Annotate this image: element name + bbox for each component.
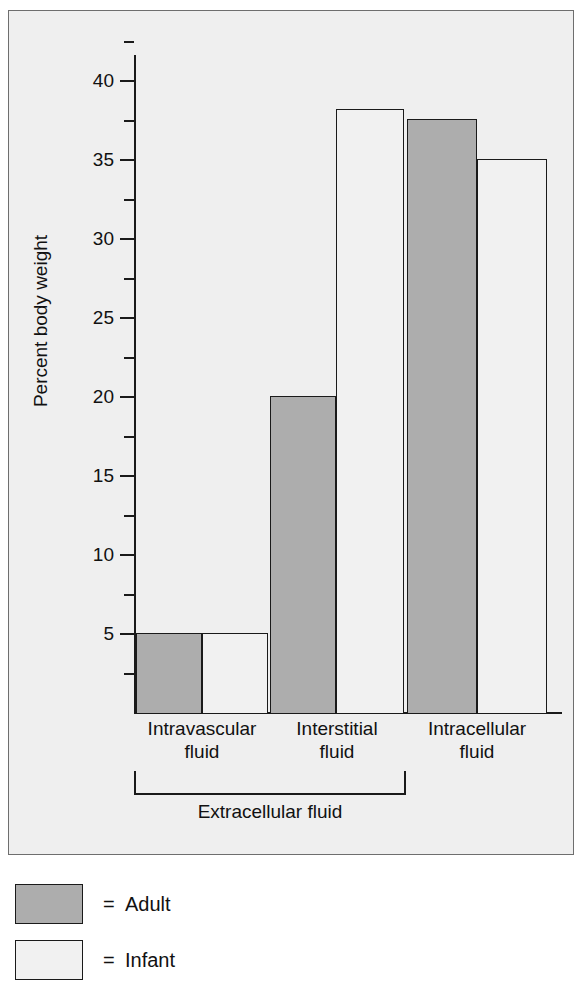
y-tick-minor-12_5 (124, 515, 134, 517)
y-tick-label-wrap-15: 15 (69, 466, 114, 485)
y-tick-5 (120, 633, 134, 635)
y-tick-label-wrap-35: 35 (69, 150, 114, 169)
y-tick-label-30: 30 (74, 229, 114, 248)
category-label-intravascular-line2: fluid (127, 740, 277, 763)
category-label-intravascular: Intravascular fluid (127, 717, 277, 763)
y-tick-label-35: 35 (74, 150, 114, 169)
y-tick-minor-2_5 (124, 673, 134, 675)
y-tick-label-wrap-30: 30 (69, 229, 114, 248)
y-tick-minor-32_5 (124, 199, 134, 201)
bracket-right-tick (404, 771, 406, 795)
y-tick-label-40: 40 (74, 71, 114, 90)
category-label-interstitial: Interstitial fluid (262, 717, 412, 763)
category-label-interstitial-line2: fluid (262, 740, 412, 763)
y-tick-label-20: 20 (74, 387, 114, 406)
y-tick-minor-22_5 (124, 357, 134, 359)
y-tick-35 (120, 159, 134, 161)
bar-interstitial-adult (270, 396, 336, 714)
category-label-interstitial-line1: Interstitial (262, 717, 412, 740)
extracellular-bracket-label: Extracellular fluid (134, 801, 406, 823)
y-tick-minor-17_5 (124, 436, 134, 438)
extracellular-bracket (134, 771, 406, 795)
y-tick-30 (120, 238, 134, 240)
y-axis-title: Percent body weight (31, 231, 51, 411)
y-axis-line (134, 55, 136, 714)
y-tick-25 (120, 317, 134, 319)
legend-label-adult-wrap: =Adult (103, 892, 171, 916)
y-tick-label-wrap-20: 20 (69, 387, 114, 406)
bar-intravascular-infant (202, 633, 268, 714)
figure-frame: Percent body weight 40 35 30 25 20 15 10… (8, 10, 574, 855)
y-tick-label-10: 10 (74, 545, 114, 564)
y-tick-minor-7_5 (124, 594, 134, 596)
bracket-horizontal (134, 793, 406, 795)
y-tick-10 (120, 554, 134, 556)
y-tick-15 (120, 475, 134, 477)
y-tick-label-wrap-40: 40 (69, 71, 114, 90)
bracket-left-tick (134, 771, 136, 795)
y-tick-20 (120, 396, 134, 398)
y-tick-label-wrap-10: 10 (69, 545, 114, 564)
legend-equals-adult: = (103, 892, 125, 916)
category-label-intracellular-line1: Intracellular (402, 717, 552, 740)
legend-swatch-infant (15, 940, 83, 980)
bar-interstitial-infant (336, 109, 404, 714)
legend-label-adult: Adult (125, 893, 171, 915)
category-label-intracellular: Intracellular fluid (402, 717, 552, 763)
bar-intravascular-adult (136, 633, 202, 714)
legend-label-infant: Infant (125, 949, 175, 971)
category-label-intravascular-line1: Intravascular (127, 717, 277, 740)
y-tick-label-wrap-5: 5 (69, 624, 114, 643)
bar-intracellular-adult (407, 119, 477, 714)
y-tick-40 (120, 80, 134, 82)
legend-label-infant-wrap: =Infant (103, 948, 175, 972)
legend-swatch-adult (15, 884, 83, 924)
y-tick-label-5: 5 (74, 624, 114, 643)
legend-equals-infant: = (103, 948, 125, 972)
y-tick-label-15: 15 (74, 466, 114, 485)
y-tick-minor-37_5 (124, 120, 134, 122)
y-tick-minor-27_5 (124, 278, 134, 280)
category-label-intracellular-line2: fluid (402, 740, 552, 763)
y-tick-label-wrap-25: 25 (69, 308, 114, 327)
bar-intracellular-infant (477, 159, 547, 714)
y-tick-label-25: 25 (74, 308, 114, 327)
y-tick-minor-42_5 (124, 41, 134, 43)
